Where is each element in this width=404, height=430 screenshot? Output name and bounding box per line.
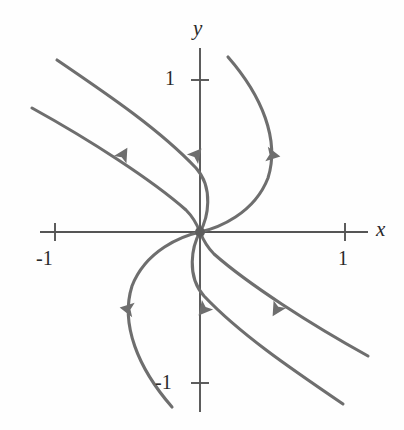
trajectory-upper-right-arrowhead	[265, 147, 281, 164]
x-axis-tick-label-positive-one: 1	[338, 248, 348, 268]
origin-node	[195, 227, 205, 237]
trajectory-upper-left-inner	[32, 108, 200, 232]
x-axis-tick-label-negative-one: -1	[36, 248, 53, 268]
trajectory-upper-right	[200, 57, 272, 232]
x-axis-label: x	[376, 219, 385, 240]
trajectory-lower-right-outer	[192, 232, 343, 404]
y-axis-label: y	[193, 18, 202, 39]
trajectory-upper-left-outer	[57, 60, 208, 232]
y-axis-tick-label-positive-one: 1	[165, 68, 175, 88]
phase-portrait-canvas	[0, 0, 404, 430]
equilibrium-point-group	[195, 227, 205, 237]
trajectory-lower-left-arrowhead	[118, 300, 134, 317]
phase-portrait-figure: y x 1 -1 -1 1	[0, 0, 404, 430]
y-axis-tick-label-negative-one: -1	[155, 372, 172, 392]
